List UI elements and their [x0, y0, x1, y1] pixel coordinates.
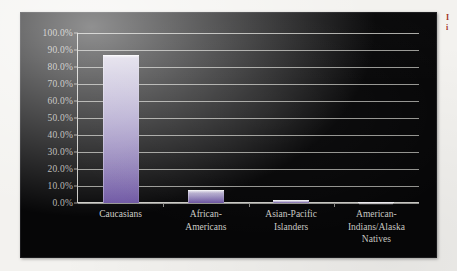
y-axis-tick-label: 60.0% [47, 96, 73, 106]
y-axis-tick-label: 80.0% [47, 62, 73, 72]
x-axis-category-labels: CaucasiansAfrican-AmericansAsian-Pacific… [78, 208, 419, 246]
x-axis-category-label: Asian-PacificIslanders [249, 208, 334, 246]
x-axis-category-label: African-Americans [163, 208, 248, 246]
x-axis-category-label: Caucasians [78, 208, 163, 246]
y-axis-tick-label: 20.0% [47, 164, 73, 174]
y-axis-tick-label: 100.0% [43, 28, 74, 38]
y-axis-tick-label: 0.0% [52, 198, 73, 208]
y-axis-tick-label: 50.0% [47, 113, 73, 123]
bar-asian-pacific-islanders [273, 200, 309, 203]
bar-chart-panel: 100.0%90.0%80.0%70.0%60.0%50.0%40.0%30.0… [20, 12, 437, 258]
x-axis-tick-mark [163, 203, 164, 207]
bar-african-americans [188, 190, 224, 203]
clipped-margin-note: Ii [446, 13, 457, 33]
y-axis-tick-label: 90.0% [47, 45, 73, 55]
scanned-page-background: 100.0%90.0%80.0%70.0%60.0%50.0%40.0%30.0… [0, 0, 457, 271]
x-axis-tick-mark [249, 203, 250, 207]
y-axis-tick-label: 40.0% [47, 130, 73, 140]
x-axis-tick-mark [334, 203, 335, 207]
bar-caucasians [103, 55, 139, 203]
y-axis-tick-label: 30.0% [47, 147, 73, 157]
y-axis-tick-label: 70.0% [47, 79, 73, 89]
plot-area: 100.0%90.0%80.0%70.0%60.0%50.0%40.0%30.0… [78, 33, 419, 203]
bars-group [78, 33, 419, 203]
y-axis-tick-label: 10.0% [47, 181, 73, 191]
bar-slot [78, 33, 163, 203]
bar-american-indians-alaska-natives [358, 202, 394, 203]
bar-slot [249, 33, 334, 203]
x-axis-category-label: American-Indians/AlaskaNatives [334, 208, 419, 246]
bar-slot [334, 33, 419, 203]
bar-slot [163, 33, 248, 203]
